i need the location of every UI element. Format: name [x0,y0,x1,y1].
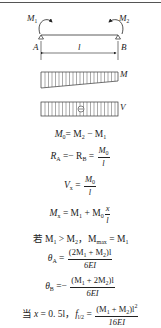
moment-diagram [41,72,118,88]
right-moment-label: M2 [118,13,130,24]
equation-m0: M0= M2 − M1 [0,130,161,140]
beam-diagram: M1 M2 A B l M V [0,0,161,130]
shear-diagram-label: V [120,102,127,112]
equation-max-moment: 若 M1 > M2，Mmax = M1 [0,235,161,245]
support-b-label: B [121,42,127,52]
equation-deflection: 当 x = 0. 5l，fl/2 = (M1 + M2)l216EI [0,303,161,327]
left-support-icon [39,35,44,39]
equation-shear: Vx = M0l [0,175,161,197]
equation-theta-a: θA = (2M1 + M2)l6EI [0,248,161,270]
shear-diagram [41,102,118,116]
equation-reactions: RA =− RB = M0l [0,146,161,168]
moment-diagram-label: M [119,69,128,79]
equation-theta-b: θB =− (M1 + 2M2)l6EI [0,276,161,298]
right-support-icon [116,35,121,39]
left-moment-arrow-icon [39,20,52,34]
span-label: l [78,42,81,52]
support-a-label: A [32,42,39,52]
left-moment-label: M1 [26,13,38,24]
equation-moment: Mx = M1 + M0xl [0,204,161,224]
right-moment-arrow-icon [109,20,123,34]
